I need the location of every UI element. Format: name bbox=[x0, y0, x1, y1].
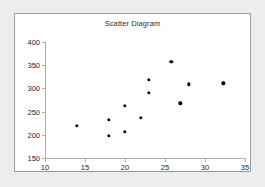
plot-area: 150200250300350400 101520253035 bbox=[45, 42, 245, 158]
x-tick-mark bbox=[165, 159, 166, 162]
x-tick-label: 30 bbox=[201, 163, 209, 172]
chart-title: Scatter Diagram bbox=[15, 19, 250, 28]
x-tick-mark bbox=[85, 159, 86, 162]
y-axis-line bbox=[45, 42, 46, 159]
scatter-point bbox=[123, 130, 126, 133]
x-tick-mark bbox=[125, 159, 126, 162]
scatter-point bbox=[139, 116, 142, 119]
scatter-point bbox=[178, 102, 181, 105]
y-tick-mark bbox=[42, 42, 45, 43]
scatter-point bbox=[222, 82, 225, 85]
x-tick-mark bbox=[205, 159, 206, 162]
scatter-point bbox=[107, 118, 110, 121]
x-tick-label: 35 bbox=[241, 163, 249, 172]
y-tick-label: 350 bbox=[27, 61, 40, 70]
y-tick-mark bbox=[42, 65, 45, 66]
x-tick-label: 25 bbox=[161, 163, 169, 172]
scatter-point bbox=[170, 60, 173, 63]
y-tick-label: 400 bbox=[27, 38, 40, 47]
y-tick-mark bbox=[42, 135, 45, 136]
y-tick-label: 150 bbox=[27, 154, 40, 163]
x-tick-label: 10 bbox=[41, 163, 49, 172]
x-tick-mark bbox=[245, 159, 246, 162]
x-axis-line bbox=[45, 158, 246, 159]
scatter-point bbox=[123, 104, 126, 107]
scatter-point bbox=[147, 78, 150, 81]
x-tick-mark bbox=[45, 159, 46, 162]
page-background: Scatter Diagram 150200250300350400 10152… bbox=[0, 0, 265, 187]
y-tick-label: 300 bbox=[27, 84, 40, 93]
y-tick-label: 250 bbox=[27, 107, 40, 116]
x-tick-label: 15 bbox=[81, 163, 89, 172]
scatter-point bbox=[107, 134, 110, 137]
x-tick-label: 20 bbox=[121, 163, 129, 172]
y-tick-mark bbox=[42, 112, 45, 113]
y-tick-mark bbox=[42, 88, 45, 89]
chart-panel: Scatter Diagram 150200250300350400 10152… bbox=[14, 13, 251, 172]
scatter-point bbox=[187, 83, 190, 86]
scatter-point bbox=[75, 124, 78, 127]
y-tick-label: 200 bbox=[27, 130, 40, 139]
scatter-point bbox=[147, 91, 150, 94]
